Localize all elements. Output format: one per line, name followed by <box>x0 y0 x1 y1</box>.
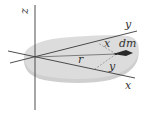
x-distance-label: x <box>104 37 111 50</box>
y-axis-label: y <box>124 18 132 31</box>
lamina-diagram: z y x dm x y r <box>0 0 146 115</box>
radius-label: r <box>78 53 84 66</box>
dm-point <box>115 53 117 55</box>
x-axis-label: x <box>125 79 132 92</box>
z-axis-label: z <box>18 8 31 15</box>
y-distance-label: y <box>108 60 116 73</box>
dm-label: dm <box>119 37 136 50</box>
